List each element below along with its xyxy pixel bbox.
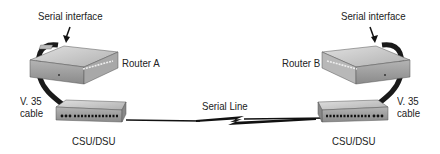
- router-a-label: Router A: [122, 57, 160, 69]
- csu-left-ports: [61, 115, 118, 118]
- csu-dsu-label-left: CSU/DSU: [72, 135, 116, 147]
- serial-interface-arrow-right: [370, 27, 378, 43]
- cable-label-right-line2: cable: [397, 107, 420, 119]
- serial-interface-label-right: Serial interface: [341, 10, 406, 22]
- serial-line: [126, 116, 328, 125]
- cable-label-left-line2: cable: [20, 107, 43, 119]
- cable-label-left-line1: V. 35: [20, 95, 42, 107]
- cable-label-right-line1: V. 35: [397, 95, 419, 107]
- network-diagram: [0, 0, 440, 154]
- serial-interface-label-left: Serial interface: [38, 10, 103, 22]
- csu-dsu-right: [318, 100, 388, 122]
- router-b-label: Router B: [282, 57, 320, 69]
- csu-dsu-label-right: CSU/DSU: [332, 135, 376, 147]
- csu-dsu-left: [56, 100, 126, 122]
- serial-line-label: Serial Line: [202, 100, 248, 112]
- serial-interface-arrow-left: [63, 27, 70, 43]
- csu-right-ports: [326, 115, 383, 118]
